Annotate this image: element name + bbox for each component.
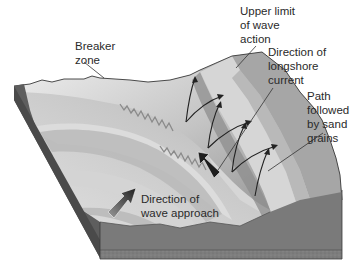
wave-approach-direction-label: Direction of wave approach [141,192,219,220]
breaker-zone-label: Breaker zone [75,39,115,67]
longshore-current-diagram: Breaker zone Upper limit of wave action … [0,0,353,270]
sand-grain-path-label: Path followed by sand grains [307,89,349,145]
upper-limit-of-wave-action-label: Upper limit of wave action [240,4,295,46]
block-diagram-illustration [0,0,353,270]
longshore-current-direction-label: Direction of longshore current [268,45,326,87]
